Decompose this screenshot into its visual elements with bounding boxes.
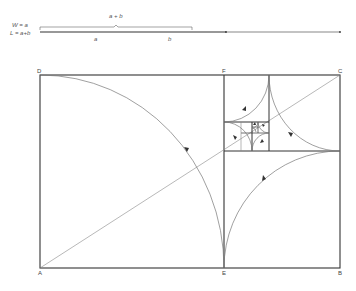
segment-b-label: b [168, 36, 171, 42]
length-segment [40, 31, 341, 33]
point-b-label: B [338, 270, 342, 276]
sum-brace [40, 25, 192, 30]
diagonal-ac [40, 75, 340, 268]
golden-rectangle-diagram [0, 0, 356, 291]
sum-label: a + b [109, 13, 123, 19]
segment-a-label: a [94, 36, 97, 42]
width-label: W = a [12, 22, 28, 28]
point-c-label: C [338, 68, 342, 74]
point-d-label: D [37, 68, 41, 74]
length-label: L = a+b [10, 30, 30, 36]
point-f-label: F [222, 68, 226, 74]
point-a-label: A [38, 270, 42, 276]
point-e-label: E [222, 270, 226, 276]
